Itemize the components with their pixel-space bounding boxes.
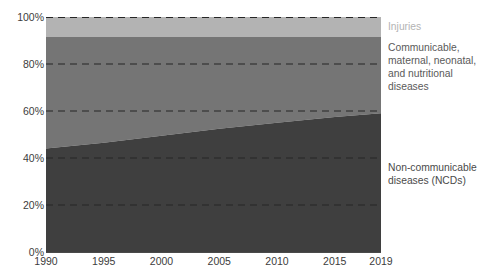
x-tick-1990: 1990 — [34, 255, 57, 267]
y-tick-80: 80% — [2, 59, 44, 69]
x-tick-1995: 1995 — [92, 255, 115, 267]
area-band-injuries — [46, 17, 381, 37]
y-tick-20: 20% — [2, 200, 44, 210]
legend-label-ncd: Non-communicable diseases (NCDs) — [388, 161, 488, 187]
stacked-area-chart: 100% 80% 60% 40% 20% 0% 1990 1995 2000 2… — [0, 0, 488, 280]
x-tick-2010: 2010 — [265, 255, 288, 267]
x-tick-2000: 2000 — [150, 255, 173, 267]
chart-legend: Injuries Communicable, maternal, neonata… — [388, 0, 488, 280]
legend-label-communicable: Communicable, maternal, neonatal, and nu… — [388, 41, 488, 93]
x-tick-2005: 2005 — [208, 255, 231, 267]
y-axis: 100% 80% 60% 40% 20% 0% — [0, 0, 44, 280]
y-tick-40: 40% — [2, 153, 44, 163]
legend-label-injuries: Injuries — [388, 20, 488, 33]
x-axis-baseline — [46, 252, 381, 253]
plot-area — [46, 17, 381, 252]
y-tick-60: 60% — [2, 106, 44, 116]
plot-svg — [46, 17, 381, 252]
x-tick-2015: 2015 — [323, 255, 346, 267]
y-tick-100: 100% — [2, 12, 44, 22]
